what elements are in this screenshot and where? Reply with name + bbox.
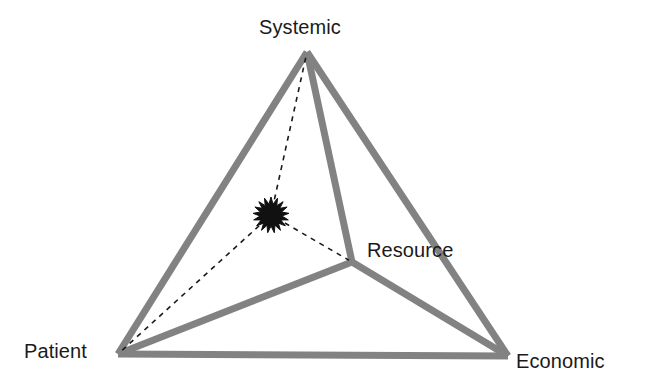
- edge-patient-economic: [118, 354, 508, 356]
- vertex-label-resource: Resource: [367, 239, 453, 261]
- diagram-figure: Systemic Patient Economic Resource: [0, 0, 649, 391]
- vertex-label-patient: Patient: [24, 340, 87, 362]
- vertex-label-economic: Economic: [516, 350, 605, 372]
- diagram-background: [0, 0, 649, 391]
- tetrahedron-diagram: [0, 0, 649, 391]
- vertex-label-systemic: Systemic: [259, 16, 341, 38]
